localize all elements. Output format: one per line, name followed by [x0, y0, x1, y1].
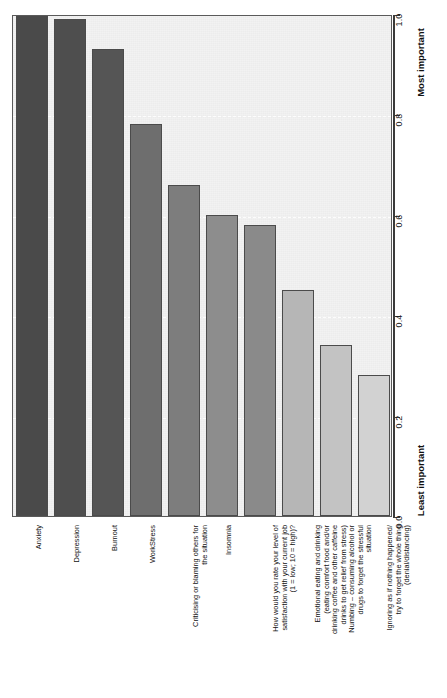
axis-tick-label: 0.6 [394, 214, 404, 227]
axis-caption-least-important: Least important [415, 445, 426, 516]
category-label: How would you rate your level ofsatisfac… [272, 525, 298, 695]
bar [282, 290, 314, 516]
axis-tick-label: 0.8 [394, 114, 404, 127]
category-label-line: the situation [200, 525, 209, 695]
category-label-line: (denial/distancing) [403, 525, 412, 695]
axis-tick-label: 0.2 [394, 415, 404, 428]
bar-chart-figure: 0.00.20.40.60.81.0 Most important Least … [0, 0, 447, 698]
category-labels: AnxietyDepressionBurnoutWorkStressCritic… [12, 521, 392, 698]
bar [16, 15, 48, 516]
category-label-line: Criticising or blaming others for [192, 525, 201, 695]
category-label: Emotional eating and drinking(eating com… [314, 525, 348, 695]
bar [358, 375, 390, 516]
category-label: Insomnia [225, 525, 234, 695]
bar [320, 345, 352, 516]
category-label: Depression [73, 525, 82, 695]
value-axis-line [393, 15, 395, 517]
axis-caption-most-important: Most important [415, 28, 426, 97]
plot-panel [12, 15, 392, 517]
category-label-line: Depression [73, 525, 82, 695]
axis-tick-label: 1.0 [394, 13, 404, 26]
category-label: Ignoring as if nothing happened/try to f… [386, 525, 412, 695]
bar [206, 215, 238, 516]
category-label-line: Anxiety [35, 525, 44, 695]
bar [130, 124, 162, 516]
category-label-line: (1 = low; 10 = high)? [289, 525, 298, 695]
category-label: Anxiety [35, 525, 44, 695]
category-label: Numbing – consuming alcohol ordrugs to f… [348, 525, 374, 695]
axis-tick-label: 0.4 [394, 315, 404, 328]
category-label: Criticising or blaming others forthe sit… [192, 525, 209, 695]
bar [244, 225, 276, 516]
bars-group [13, 16, 391, 516]
category-label: WorkStress [149, 525, 158, 695]
category-label-line: situation [365, 525, 374, 695]
bar [92, 49, 124, 516]
category-label-line: Insomnia [225, 525, 234, 695]
category-label: Burnout [111, 525, 120, 695]
category-label-line: Burnout [111, 525, 120, 695]
category-label-line: WorkStress [149, 525, 158, 695]
bar [168, 185, 200, 516]
bar [54, 19, 86, 516]
